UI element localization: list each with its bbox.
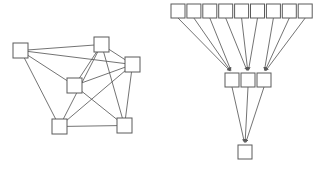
graph-edge	[28, 45, 94, 50]
figure-canvas	[0, 0, 322, 170]
tree-node-top-layer[interactable]	[187, 4, 201, 18]
tree-arrow	[194, 18, 231, 71]
tree-arrow	[246, 87, 264, 143]
graph-node-box[interactable]	[94, 37, 109, 52]
tree-node-box[interactable]	[238, 145, 252, 159]
tree-node-bottom-layer[interactable]	[238, 145, 252, 159]
tree-arrow	[178, 18, 230, 71]
graph-node[interactable]	[125, 57, 140, 72]
graph-node-box[interactable]	[67, 78, 82, 93]
graph-edge	[79, 52, 96, 78]
tree-node-box[interactable]	[225, 73, 239, 87]
graph-node[interactable]	[94, 37, 109, 52]
graph-node[interactable]	[67, 78, 82, 93]
graph-edge	[67, 126, 117, 127]
tree-node-box[interactable]	[298, 4, 312, 18]
graph-node-box[interactable]	[117, 118, 132, 133]
graph-edge	[28, 51, 125, 63]
tree-node-top-layer[interactable]	[203, 4, 217, 18]
tree-node-box[interactable]	[266, 4, 280, 18]
tree-node-top-layer[interactable]	[235, 4, 249, 18]
tree-node-top-layer[interactable]	[282, 4, 296, 18]
tree-node-top-layer[interactable]	[298, 4, 312, 18]
tree-node-box[interactable]	[251, 4, 265, 18]
graph-edge	[125, 72, 131, 118]
figure-root	[0, 0, 322, 170]
tree-node-box[interactable]	[235, 4, 249, 18]
graph-node[interactable]	[52, 119, 67, 134]
tree-node-middle-layer[interactable]	[257, 73, 271, 87]
tree-arrow	[226, 18, 247, 71]
tree-arrow	[210, 18, 231, 71]
tree-node-top-layer[interactable]	[251, 4, 265, 18]
tree-node-box[interactable]	[257, 73, 271, 87]
tree-node-box[interactable]	[203, 4, 217, 18]
tree-node-box[interactable]	[187, 4, 201, 18]
graph-edge	[109, 49, 125, 59]
tree-arrow	[232, 87, 244, 142]
graph-node[interactable]	[13, 43, 28, 58]
tree-node-box[interactable]	[282, 4, 296, 18]
tree-node-box[interactable]	[241, 73, 255, 87]
tree-node-middle-layer[interactable]	[225, 73, 239, 87]
tree-node-middle-layer[interactable]	[241, 73, 255, 87]
tree-node-top-layer[interactable]	[219, 4, 233, 18]
tree-node-top-layer[interactable]	[266, 4, 280, 18]
tree-node-top-layer[interactable]	[171, 4, 185, 18]
tree-arrow	[248, 18, 257, 70]
graph-edge	[82, 92, 117, 120]
tree-node-box[interactable]	[171, 4, 185, 18]
tree-node-box[interactable]	[219, 4, 233, 18]
graph-node-box[interactable]	[13, 43, 28, 58]
graph-edge	[24, 58, 55, 119]
graph-node-box[interactable]	[52, 119, 67, 134]
tree-arrow	[245, 87, 248, 142]
graph-node-box[interactable]	[125, 57, 140, 72]
tree-arrow	[242, 18, 248, 70]
tree-nodes-group	[171, 4, 312, 159]
graph-node[interactable]	[117, 118, 132, 133]
